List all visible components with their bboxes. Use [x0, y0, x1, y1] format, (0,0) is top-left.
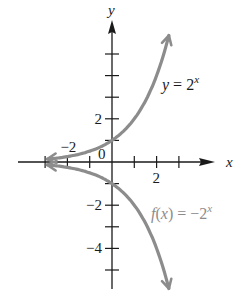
x-tick-label: −2 [60, 139, 76, 155]
x-axis-label: x [225, 154, 233, 170]
origin-label: 0 [98, 146, 106, 162]
x-axis-arrow-icon [199, 158, 215, 166]
label-y-equals-2-to-x: y = 2x [160, 73, 199, 94]
y-axis-arrow-icon [108, 20, 116, 34]
labels: xy−222−2−40y = 2xf(x) = −2x [60, 2, 233, 256]
y-tick-label: −4 [86, 240, 102, 256]
y-tick-label: −2 [86, 197, 102, 213]
x-tick-label: 2 [153, 170, 161, 186]
exponential-graph: xy−222−2−40y = 2xf(x) = −2x [0, 0, 248, 305]
axes [18, 20, 215, 289]
y-tick-label: 2 [95, 111, 103, 127]
y-axis-label: y [106, 2, 115, 18]
label-f-equals-neg-2-to-x: f(x) = −2x [151, 202, 212, 223]
